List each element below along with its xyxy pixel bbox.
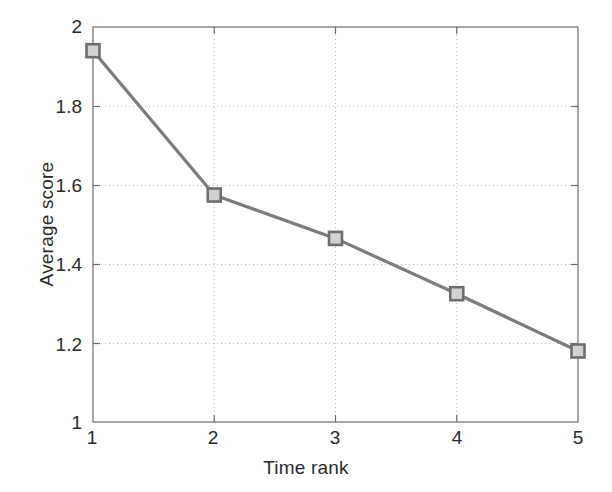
data-point-4 [450, 287, 463, 300]
y-axis-label: Average score [36, 26, 58, 422]
chart-page: 2 1.8 1.6 1.4 1.2 1 1 2 3 4 5 Time rank … [0, 0, 612, 492]
figure-container: 2 1.8 1.6 1.4 1.2 1 1 2 3 4 5 Time rank … [0, 0, 612, 492]
data-point-2 [208, 189, 221, 202]
data-point-5 [572, 345, 585, 358]
xtick-label-3: 3 [310, 427, 360, 449]
xtick-label-1: 1 [67, 427, 117, 449]
line-chart-plot [0, 0, 612, 492]
x-axis-label: Time rank [0, 457, 612, 479]
axes-box [93, 27, 578, 422]
data-point-1 [87, 44, 100, 57]
xtick-label-4: 4 [432, 427, 482, 449]
x-tick-marks [214, 27, 457, 422]
vertical-gridlines [214, 27, 457, 422]
xtick-label-5: 5 [553, 427, 603, 449]
data-point-3 [329, 232, 342, 245]
xtick-label-2: 2 [188, 427, 238, 449]
